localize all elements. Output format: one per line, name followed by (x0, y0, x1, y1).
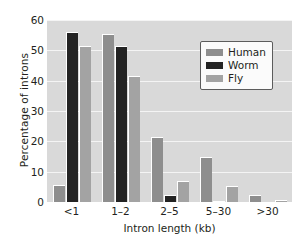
bar-group (53, 20, 91, 202)
x-tick-label: 5–30 (194, 205, 243, 217)
legend-item-fly: Fly (206, 72, 266, 85)
bar-fly-0 (79, 46, 91, 202)
x-tick-label: 2–5 (145, 205, 194, 217)
x-tick-label: 1–2 (96, 205, 145, 217)
legend-label: Fly (228, 73, 243, 84)
legend-swatch-worm (206, 62, 223, 69)
x-tick-label: >30 (243, 205, 292, 217)
y-tick-label: 50 (22, 45, 44, 56)
y-tick-label: 30 (22, 106, 44, 117)
y-axis-tick-labels: 0102030405060 (22, 20, 44, 202)
legend-item-human: Human (206, 46, 266, 59)
bar-human-3 (200, 157, 212, 203)
bar-worm-0 (66, 32, 78, 202)
bar-worm-1 (115, 46, 127, 202)
bar-human-2 (151, 137, 163, 202)
y-tick-label: 10 (22, 166, 44, 177)
legend: HumanWormFly (200, 41, 273, 90)
legend-swatch-fly (206, 75, 223, 82)
bar-group (102, 20, 140, 202)
bar-chart-figure: Percentage of introns 0102030405060 Huma… (0, 0, 302, 242)
bar-human-1 (102, 34, 114, 202)
bar-human-4 (249, 195, 261, 202)
bar-fly-4 (275, 200, 287, 202)
y-tick-label: 0 (22, 197, 44, 208)
legend-label: Worm (228, 60, 259, 71)
x-axis-tick-labels: <11–22–55–30>30 (47, 205, 292, 217)
bar-fly-1 (128, 76, 140, 202)
bar-fly-3 (226, 186, 238, 202)
bar-fly-2 (177, 181, 189, 202)
y-tick-label: 60 (22, 15, 44, 26)
x-axis-title: Intron length (kb) (47, 222, 292, 234)
legend-item-worm: Worm (206, 59, 266, 72)
y-tick-label: 20 (22, 136, 44, 147)
bar-worm-3 (213, 201, 225, 202)
bar-group (151, 20, 189, 202)
bar-worm-2 (164, 195, 176, 202)
bar-human-0 (53, 185, 65, 202)
legend-label: Human (228, 47, 266, 58)
legend-swatch-human (206, 49, 223, 56)
x-tick-label: <1 (47, 205, 96, 217)
y-tick-label: 40 (22, 75, 44, 86)
